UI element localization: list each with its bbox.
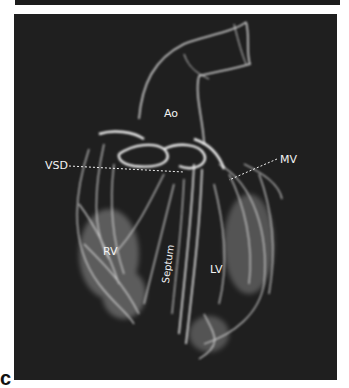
vsd-pointer-line [69, 166, 184, 172]
label-aorta: Ao [164, 108, 178, 120]
heart-image-panel: Ao VSD MV RV Septum LV [14, 14, 337, 380]
mv-pointer-line [229, 159, 277, 180]
aorta-shape [139, 22, 250, 144]
panel-letter: c [0, 368, 11, 388]
left-ventricle-mesh [189, 194, 274, 352]
valve-region [99, 132, 224, 169]
label-mitral-valve: MV [280, 154, 297, 166]
label-vsd: VSD [45, 160, 68, 172]
label-left-ventricle: LV [210, 264, 222, 276]
heart-structure-drawing [14, 14, 337, 380]
label-right-ventricle: RV [103, 246, 118, 258]
previous-panel-strip [15, 0, 340, 5]
septum-fibers [172, 164, 202, 344]
